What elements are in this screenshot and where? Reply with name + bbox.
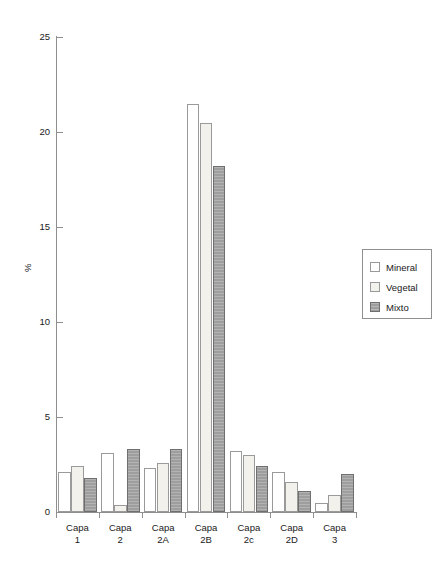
x-group-separator: [313, 512, 314, 518]
bar-group: [227, 37, 270, 512]
bar-mixto[interactable]: [341, 474, 354, 512]
x-group-separator: [356, 512, 357, 518]
y-tick-label: 25: [26, 31, 50, 42]
bar-mineral[interactable]: [58, 472, 71, 512]
legend-label-mixto: Mixto: [386, 302, 409, 313]
x-group-separator: [99, 512, 100, 518]
x-group-separator: [185, 512, 186, 518]
x-group-separator: [142, 512, 143, 518]
bar-vegetal[interactable]: [243, 455, 256, 512]
bar-mineral[interactable]: [144, 468, 157, 512]
bar-mixto[interactable]: [298, 491, 311, 512]
x-group-separator: [227, 512, 228, 518]
legend-swatch-mineral-icon: [370, 262, 380, 272]
chart-legend: Mineral Vegetal Mixto: [362, 249, 432, 319]
bar-group: [185, 37, 228, 512]
y-tick-label: 10: [26, 316, 50, 327]
x-axis-category-label: Capa 2: [99, 522, 142, 546]
bar-mineral[interactable]: [230, 451, 243, 512]
x-group-separator: [270, 512, 271, 518]
x-axis-category-label: Capa 3: [313, 522, 356, 546]
x-axis-category-label: Capa 2B: [185, 522, 228, 546]
x-axis-category-label: Capa 2c: [227, 522, 270, 546]
bar-group: [99, 37, 142, 512]
y-axis-title: %: [22, 264, 33, 272]
bar-vegetal[interactable]: [200, 123, 213, 513]
legend-item-mixto: Mixto: [370, 297, 431, 317]
bar-groups: [56, 37, 356, 512]
bar-mineral[interactable]: [101, 453, 114, 512]
bar-mixto[interactable]: [170, 449, 183, 512]
bar-mixto[interactable]: [127, 449, 140, 512]
bar-mineral[interactable]: [272, 472, 285, 512]
bar-mixto[interactable]: [213, 166, 226, 512]
x-axis-line: [56, 512, 356, 513]
bar-mixto[interactable]: [84, 478, 97, 512]
bar-mineral[interactable]: [315, 503, 328, 513]
x-axis-category-label: Capa 1: [56, 522, 99, 546]
legend-item-mineral: Mineral: [370, 257, 431, 277]
bar-group: [56, 37, 99, 512]
y-tick-label: 5: [26, 411, 50, 422]
bar-chart: 0510152025 % Capa 1Capa 2Capa 2ACapa 2BC…: [0, 0, 444, 587]
bar-vegetal[interactable]: [285, 482, 298, 512]
bar-mineral[interactable]: [187, 104, 200, 513]
legend-swatch-mixto-icon: [370, 302, 380, 312]
bar-vegetal[interactable]: [157, 463, 170, 512]
bar-group: [313, 37, 356, 512]
y-tick-label: 15: [26, 221, 50, 232]
legend-swatch-vegetal-icon: [370, 282, 380, 292]
legend-label-vegetal: Vegetal: [386, 282, 418, 293]
legend-label-mineral: Mineral: [386, 262, 417, 273]
bar-mixto[interactable]: [256, 466, 269, 512]
bar-vegetal[interactable]: [328, 495, 341, 512]
legend-item-vegetal: Vegetal: [370, 277, 431, 297]
y-tick-mark: [56, 512, 63, 513]
x-axis-category-label: Capa 2D: [270, 522, 313, 546]
y-tick-label: 20: [26, 126, 50, 137]
bar-group: [142, 37, 185, 512]
bar-vegetal[interactable]: [114, 505, 127, 512]
bar-group: [270, 37, 313, 512]
bar-vegetal[interactable]: [71, 466, 84, 512]
y-tick-label: 0: [26, 506, 50, 517]
x-axis-category-label: Capa 2A: [142, 522, 185, 546]
x-group-separator: [56, 512, 57, 518]
